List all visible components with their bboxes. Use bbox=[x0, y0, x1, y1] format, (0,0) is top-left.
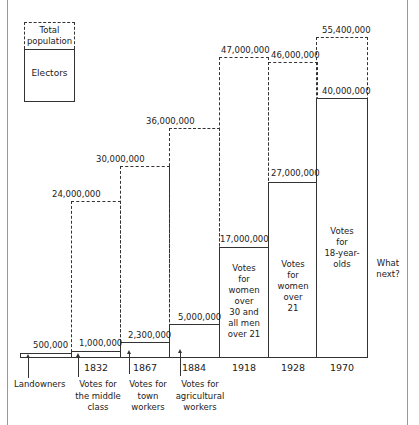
elector-label-1970: 40,000,000 bbox=[322, 86, 371, 96]
desc-1928-line: 21 bbox=[268, 303, 318, 314]
arrow-1867 bbox=[129, 352, 130, 374]
what-next-annotation: What next? bbox=[370, 258, 406, 280]
elector-label-1928: 27,000,000 bbox=[271, 168, 320, 178]
desc-1918-line: for bbox=[219, 274, 269, 285]
total-label-1918: 47,000,000 bbox=[221, 45, 270, 55]
legend-total-population-label: Total population bbox=[27, 25, 72, 46]
desc-1970-line: 18-year- bbox=[316, 248, 368, 259]
desc-1918: Votes for women over 30 and all men over… bbox=[219, 263, 269, 340]
desc-landowners: Landowners bbox=[14, 379, 64, 391]
arrow-1832 bbox=[78, 355, 79, 377]
elector-bar-1884 bbox=[169, 324, 220, 358]
year-1928: 1928 bbox=[269, 362, 317, 373]
desc-1928-line: Votes bbox=[268, 259, 318, 270]
frame-right-border bbox=[407, 0, 408, 425]
desc-1832: Votes for the middle class bbox=[70, 379, 126, 414]
desc-1918-line: 30 and bbox=[219, 307, 269, 318]
year-1832: 1832 bbox=[72, 362, 120, 373]
desc-1884-line: agricultural bbox=[168, 391, 232, 403]
elector-label-1867: 2,300,000 bbox=[128, 330, 171, 340]
desc-1928: Votes for women over 21 bbox=[268, 259, 318, 314]
desc-1918-line: over 21 bbox=[219, 329, 269, 340]
total-label-1884: 36,000,000 bbox=[146, 116, 195, 126]
frame-left-border bbox=[7, 0, 8, 425]
population-bar-1867 bbox=[120, 166, 170, 357]
desc-1832-line: the middle bbox=[70, 391, 126, 403]
desc-1918-line: over bbox=[219, 296, 269, 307]
legend-total-population: Total population bbox=[24, 22, 75, 49]
elector-label-1884: 5,000,000 bbox=[178, 312, 221, 322]
elector-label-landowners: 500,000 bbox=[33, 340, 68, 350]
arrow-1884 bbox=[180, 351, 181, 376]
desc-1970-line: Votes bbox=[316, 226, 368, 237]
what-next-line: What bbox=[370, 258, 406, 269]
elector-label-1918: 17,000,000 bbox=[220, 234, 269, 244]
desc-1918-line: women bbox=[219, 285, 269, 296]
arrow-landowners bbox=[28, 356, 29, 378]
desc-1832-line: class bbox=[70, 402, 126, 414]
desc-1970: Votes for 18-year- olds bbox=[316, 226, 368, 270]
year-1918: 1918 bbox=[220, 362, 268, 373]
desc-1970-line: for bbox=[316, 237, 368, 248]
desc-1928-line: for bbox=[268, 270, 318, 281]
desc-1928-line: over bbox=[268, 292, 318, 303]
desc-1970-line: olds bbox=[316, 259, 368, 270]
what-next-line: next? bbox=[370, 269, 406, 280]
desc-1832-line: Votes for bbox=[70, 379, 126, 391]
year-1884: 1884 bbox=[170, 362, 218, 373]
total-label-1832: 24,000,000 bbox=[52, 189, 101, 199]
desc-1884: Votes for agricultural workers bbox=[168, 379, 232, 414]
legend-electors-label: Electors bbox=[31, 68, 67, 78]
legend-electors: Electors bbox=[24, 49, 75, 102]
population-bar-1884 bbox=[169, 128, 220, 357]
total-label-1928: 46,000,000 bbox=[271, 50, 320, 60]
desc-1928-line: women bbox=[268, 281, 318, 292]
total-label-1867: 30,000,000 bbox=[96, 154, 145, 164]
desc-1884-line: workers bbox=[168, 402, 232, 414]
elector-label-1832: 1,000,000 bbox=[79, 338, 122, 348]
total-label-1970: 55,400,000 bbox=[322, 25, 371, 35]
desc-1918-line: all men bbox=[219, 318, 269, 329]
year-1970: 1970 bbox=[318, 362, 366, 373]
desc-1918-line: Votes bbox=[219, 263, 269, 274]
desc-1884-line: Votes for bbox=[168, 379, 232, 391]
population-bar-1832 bbox=[71, 201, 121, 357]
